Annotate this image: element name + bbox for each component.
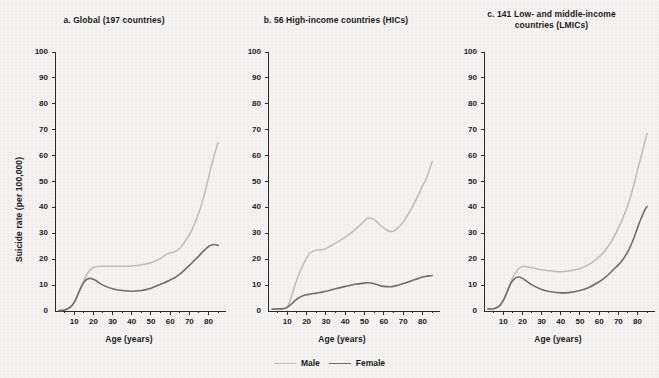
y-tick-label: 70 [459,125,477,134]
y-tick-label: 80 [30,99,48,108]
x-tick-label: 40 [553,317,569,326]
legend-item-female: Female [329,358,385,368]
legend-swatch-male-icon [274,363,296,364]
panel-b-title: b. 56 High-income countries (HICs) [228,15,444,26]
y-tick-label: 50 [30,177,48,186]
x-tick-label: 60 [591,317,607,326]
x-tick-label: 70 [181,317,197,326]
y-tick-label: 90 [30,73,48,82]
y-axis-label: Suicide rate (per 100,000) [14,157,24,262]
suicide-rate-by-age-figure: a. Global (197 countries) Suicide rate (… [0,0,659,378]
legend-label-female: Female [356,358,385,368]
x-tick-label: 40 [337,317,353,326]
y-tick-label: 20 [459,254,477,263]
y-tick-label: 0 [459,306,477,315]
y-tick-label: 60 [459,151,477,160]
panel-a-x-axis-label: Age (years) [30,334,228,344]
y-tick-label: 30 [30,228,48,237]
x-tick-label: 70 [610,317,626,326]
x-tick-label: 50 [572,317,588,326]
panel-a-title: a. Global (197 countries) [0,15,228,26]
panel-c-plot [444,0,659,378]
legend-label-male: Male [301,358,320,368]
panel-c-x-axis-label: Age (years) [460,334,656,344]
y-tick-label: 10 [243,280,261,289]
panel-b-x-axis-label: Age (years) [244,334,440,344]
y-tick-label: 50 [459,177,477,186]
y-tick-label: 30 [459,228,477,237]
y-tick-label: 70 [243,125,261,134]
y-tick-label: 50 [243,177,261,186]
panel-b-plot [228,0,444,378]
x-tick-label: 40 [124,317,140,326]
y-tick-label: 80 [459,99,477,108]
y-tick-label: 40 [459,202,477,211]
y-tick-label: 60 [243,151,261,160]
x-tick-label: 10 [279,317,295,326]
x-tick-label: 20 [514,317,530,326]
y-tick-label: 40 [243,202,261,211]
panel-b-hics: b. 56 High-income countries (HICs) Age (… [228,0,444,378]
y-tick-label: 90 [459,73,477,82]
x-tick-label: 50 [357,317,373,326]
x-tick-label: 20 [85,317,101,326]
x-tick-label: 60 [162,317,178,326]
y-tick-label: 10 [30,280,48,289]
panel-c-lmics: c. 141 Low- and middle-income countries … [444,0,659,378]
x-tick-label: 80 [414,317,430,326]
x-tick-label: 10 [66,317,82,326]
panel-c-title: c. 141 Low- and middle-income countries … [444,9,659,31]
legend-swatch-female-icon [329,363,351,364]
y-tick-label: 40 [30,202,48,211]
series-line-female [59,245,218,311]
x-tick-label: 80 [630,317,646,326]
y-tick-label: 10 [459,280,477,289]
x-tick-label: 30 [534,317,550,326]
x-tick-label: 70 [395,317,411,326]
x-tick-label: 60 [376,317,392,326]
x-tick-label: 50 [143,317,159,326]
x-tick-label: 30 [318,317,334,326]
y-tick-label: 0 [30,306,48,315]
y-tick-label: 100 [459,47,477,56]
y-tick-label: 20 [30,254,48,263]
y-tick-label: 0 [243,306,261,315]
x-tick-label: 10 [495,317,511,326]
y-tick-label: 100 [30,47,48,56]
y-tick-label: 100 [243,47,261,56]
legend: Male Female [0,358,659,368]
y-tick-label: 60 [30,151,48,160]
y-tick-label: 90 [243,73,261,82]
y-tick-label: 20 [243,254,261,263]
series-line-female [488,206,647,309]
series-line-male [272,162,432,310]
legend-item-male: Male [274,358,320,368]
y-tick-label: 80 [243,99,261,108]
x-tick-label: 20 [299,317,315,326]
y-tick-label: 30 [243,228,261,237]
x-tick-label: 80 [201,317,217,326]
x-tick-label: 30 [105,317,121,326]
y-tick-label: 70 [30,125,48,134]
